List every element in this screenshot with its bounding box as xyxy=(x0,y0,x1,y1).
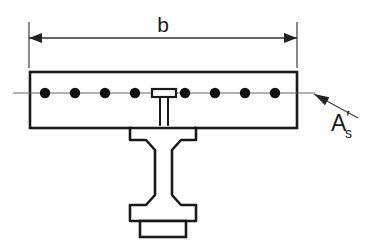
steel-i-beam-outline xyxy=(130,128,196,221)
dimension-arrowhead-left xyxy=(29,33,42,43)
rebar-dot xyxy=(240,88,250,98)
rebar-label-subscript: s xyxy=(345,125,352,141)
rebar-dot xyxy=(70,88,80,98)
callout-arrowhead xyxy=(314,94,329,105)
rebar-dot xyxy=(100,88,110,98)
stud-head xyxy=(152,89,176,97)
stud-shaft xyxy=(160,97,168,128)
rebar-dot xyxy=(180,88,190,98)
dimension-label-b: b xyxy=(157,13,169,36)
engineering-figure: b A′s xyxy=(0,0,373,249)
dimension-group: b xyxy=(29,13,297,68)
rebar-dot xyxy=(40,88,50,98)
rebar-area-label: A′s xyxy=(331,107,352,141)
bottom-cover-plate xyxy=(140,221,186,237)
rebar-dot xyxy=(210,88,220,98)
cross-section-drawing: b A′s xyxy=(0,0,373,249)
rebar-dot xyxy=(130,88,140,98)
dimension-arrowhead-right xyxy=(284,33,297,43)
rebar-dot xyxy=(270,88,280,98)
rebar-callout-group: A′s xyxy=(314,94,358,141)
